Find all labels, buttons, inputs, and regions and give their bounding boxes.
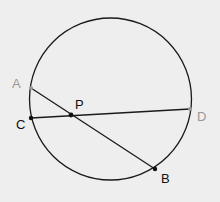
point-a <box>29 86 33 90</box>
point-p <box>69 113 74 118</box>
circle <box>30 18 192 180</box>
chord-diagram: A B C D P <box>0 0 220 202</box>
chord-ab <box>31 88 155 169</box>
label-d: D <box>197 109 206 124</box>
chord-cd <box>31 109 190 118</box>
label-a: A <box>12 76 21 91</box>
point-b <box>153 167 157 171</box>
point-c <box>29 116 33 120</box>
point-d <box>188 107 192 111</box>
label-c: C <box>16 117 25 132</box>
label-b: B <box>161 171 170 186</box>
label-p: P <box>75 97 84 112</box>
